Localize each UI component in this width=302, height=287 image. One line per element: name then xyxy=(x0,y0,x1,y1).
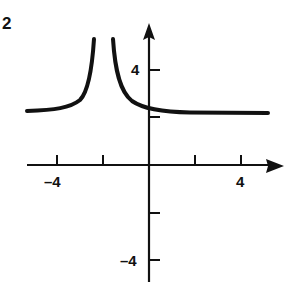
x-tick-label-neg4: –4 xyxy=(44,173,61,190)
chart-plot xyxy=(0,0,302,287)
y-tick-label-4: 4 xyxy=(131,61,139,78)
y-tick-label-neg4: –4 xyxy=(120,252,137,269)
x-axis-arrow-icon xyxy=(266,159,284,173)
curve-left-branch xyxy=(27,39,94,111)
x-tick-label-4: 4 xyxy=(236,173,244,190)
